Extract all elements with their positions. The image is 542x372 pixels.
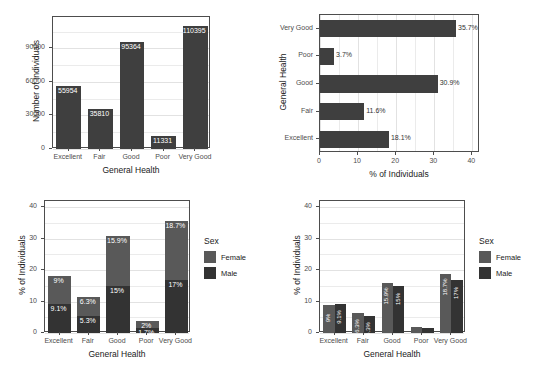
legend-label: Female	[221, 253, 246, 262]
bar-data-label-female: 6.3%	[354, 314, 360, 338]
x-axis-title: General Health	[52, 165, 210, 175]
gridline-minor	[320, 254, 464, 255]
bar-data-label-female: 15.9%	[383, 284, 389, 308]
x-tick-label: Good	[115, 153, 147, 160]
legend-label: Male	[221, 269, 237, 278]
bar-data-label-male: 15%	[395, 287, 401, 311]
bar-segment-male	[165, 280, 188, 333]
bar-segment-female	[165, 221, 188, 280]
legend-title: Sex	[204, 236, 246, 246]
bar-count	[120, 42, 145, 149]
bar-data-label: 95364	[119, 43, 144, 50]
legend-title: Sex	[479, 236, 521, 246]
bar-data-label: 3.7%	[336, 51, 352, 58]
y-tick-mark	[49, 47, 52, 48]
x-tick-mark	[357, 152, 358, 155]
bar-data-label-female: 15.9%	[105, 237, 128, 244]
x-tick-label: Very Good	[430, 337, 471, 344]
bar-data-label-female: 6.3%	[76, 298, 99, 305]
bar-data-label-female: 9%	[47, 277, 70, 284]
panel-stacked-sex: 0102030409%9.1%Excellent6.3%5.3%Fair15.9…	[0, 186, 271, 372]
y-tick-mark	[41, 238, 44, 239]
panel-grouped-sex: 0102030409%9.1%Excellent6.3%5.3%Fair15.9…	[271, 186, 542, 372]
legend-swatch-female	[204, 251, 216, 263]
x-tick-mark	[395, 152, 396, 155]
x-tick-label: 10	[342, 157, 372, 164]
x-tick-mark	[88, 332, 89, 335]
x-tick-mark	[68, 148, 69, 151]
bar-data-label-male: 9.1%	[336, 305, 342, 329]
x-tick-mark	[363, 332, 364, 335]
bar-percent	[320, 103, 364, 120]
x-tick-mark	[421, 332, 422, 335]
gridline-major	[472, 15, 473, 151]
legend-item[interactable]: Male	[204, 267, 246, 279]
y-tick-mark	[41, 206, 44, 207]
gridline-major	[45, 207, 189, 208]
y-axis-title: General Health	[278, 13, 288, 151]
x-tick-mark	[194, 148, 195, 151]
y-tick-mark	[316, 269, 319, 270]
bar-data-label: 35810	[87, 110, 112, 117]
y-tick-mark	[49, 114, 52, 115]
y-axis-title: % of Individuals	[17, 199, 27, 331]
legend-label: Female	[496, 253, 521, 262]
x-tick-label: Very Good	[178, 153, 210, 160]
gridline-major	[320, 270, 464, 271]
x-tick-mark	[471, 152, 472, 155]
x-tick-label: 20	[380, 157, 410, 164]
x-tick-label: Excellent	[52, 153, 84, 160]
legend-item[interactable]: Male	[479, 267, 521, 279]
x-tick-mark	[59, 332, 60, 335]
y-axis-title: % of Individuals	[292, 199, 302, 331]
x-tick-label: Very Good	[155, 337, 196, 344]
x-tick-mark	[175, 332, 176, 335]
bar-percent	[320, 48, 334, 65]
x-axis-title: General Health	[44, 349, 190, 359]
bar-data-label: 35.7%	[458, 24, 478, 31]
x-tick-mark	[392, 332, 393, 335]
bar-data-label-male: 17%	[164, 281, 187, 288]
legend-item[interactable]: Female	[479, 251, 521, 263]
bar-data-label: 11331	[150, 137, 175, 144]
x-axis-title: % of Individuals	[319, 169, 479, 179]
x-tick-label: 0	[304, 157, 334, 164]
y-tick-mark	[316, 206, 319, 207]
y-tick-mark	[316, 238, 319, 239]
legend-item[interactable]: Female	[204, 251, 246, 263]
y-tick-mark	[41, 332, 44, 333]
y-tick-mark	[316, 28, 319, 29]
x-tick-mark	[334, 332, 335, 335]
gridline-major	[320, 207, 464, 208]
y-tick-mark	[316, 332, 319, 333]
x-tick-mark	[319, 152, 320, 155]
bar-data-label-male: 15%	[105, 287, 128, 294]
bar-data-label-male: 9.1%	[47, 305, 70, 312]
gridline-minor	[320, 223, 464, 224]
panel-count-bars: 030000600009000055954Excellent35810Fair9…	[0, 0, 271, 186]
bar-percent	[320, 131, 389, 148]
x-tick-mark	[433, 152, 434, 155]
x-tick-label: Poor	[147, 153, 179, 160]
y-tick-mark	[316, 301, 319, 302]
x-tick-mark	[99, 148, 100, 151]
bar-data-label: 110395	[182, 27, 207, 34]
bar-count	[183, 26, 208, 149]
x-tick-mark	[117, 332, 118, 335]
y-tick-mark	[41, 301, 44, 302]
x-tick-label: 40	[456, 157, 486, 164]
bar-data-label-female: 9%	[325, 306, 331, 330]
legend-sex: SexFemaleMale	[204, 236, 246, 283]
y-tick-mark	[49, 81, 52, 82]
bar-data-label: 30.9%	[440, 79, 460, 86]
legend-swatch-female	[479, 251, 491, 263]
bar-percent	[320, 20, 456, 37]
x-tick-mark	[131, 148, 132, 151]
x-tick-mark	[146, 332, 147, 335]
bar-percent	[320, 75, 438, 92]
bar-count	[56, 86, 81, 149]
y-tick-mark	[49, 148, 52, 149]
legend-swatch-male	[204, 267, 216, 279]
bar-data-label-male: 17%	[453, 281, 459, 305]
y-tick-mark	[316, 83, 319, 84]
